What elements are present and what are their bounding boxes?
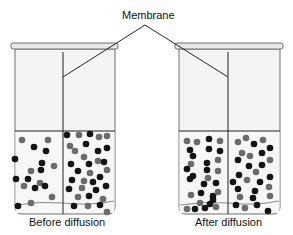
solute-molecule [204,160,211,167]
water-molecule [28,168,35,175]
solute-molecule [187,147,194,154]
solute-molecule [12,156,19,163]
solute-molecule [233,202,240,209]
water-molecule [104,209,111,216]
water-molecule [75,194,82,201]
caption-after: After diffusion [195,216,262,228]
water-molecule [184,138,191,145]
solute-molecule [190,153,197,160]
water-molecule [215,168,222,175]
beaker-rim [11,43,118,49]
solute-molecule [64,132,71,139]
solute-molecule [198,190,205,197]
water-molecule [243,135,250,142]
solute-molecule [86,193,93,200]
solute-molecule [104,145,111,152]
solute-molecule [187,176,194,183]
water-molecule [267,157,274,164]
solute-molecule [97,174,104,181]
solute-molecule [103,183,110,190]
beaker-rim [175,43,283,49]
water-molecule [247,153,254,160]
water-molecule [87,170,94,177]
solute-molecule [267,174,274,181]
solute-molecule [38,167,45,174]
solute-molecule [25,176,32,183]
water-molecule [104,167,111,174]
water-molecule [244,177,251,184]
water-molecule [19,137,26,144]
solute-molecule [201,181,208,188]
solute-molecule [217,148,224,155]
water-molecule [76,132,83,139]
water-molecule [235,139,242,146]
solute-molecule [235,157,242,164]
water-molecule [197,200,204,207]
solute-molecule [32,185,39,192]
solute-molecule [250,195,257,202]
water-molecule [266,184,273,191]
water-molecule [100,196,107,203]
solute-molecule [90,179,97,186]
beaker-after [175,43,283,214]
water-molecule [81,178,88,185]
water-molecule [81,154,88,161]
water-molecule [184,206,191,213]
solute-molecule [95,148,102,155]
solute-molecule [93,187,100,194]
solute-molecule [267,145,274,152]
solute-molecule [259,150,266,157]
water-molecule [96,134,103,141]
water-molecule [67,143,74,150]
solute-molecule [39,160,46,167]
water-molecule [28,200,35,207]
water-molecule [260,137,267,144]
solute-molecule [87,131,94,138]
water-molecule [239,150,246,157]
water-molecule [194,139,201,146]
solute-molecule [43,148,50,155]
solute-molecule [192,206,199,213]
beaker-before [11,43,118,215]
water-molecule [242,205,249,212]
solute-molecule [213,180,220,187]
solute-molecule [265,208,272,215]
membrane-label: Membrane [122,9,175,21]
solute-molecule [86,161,93,168]
water-molecule [45,137,52,144]
water-molecule [205,175,212,182]
water-molecule [85,203,92,210]
caption-before: Before diffusion [29,216,105,228]
solute-molecule [71,203,78,210]
solute-molecule [68,161,75,168]
solute-molecule [206,146,213,153]
solute-molecule [101,159,108,166]
water-molecule [51,163,58,170]
solute-molecule [13,176,20,183]
solute-molecule [252,188,259,195]
solute-molecule [69,177,76,184]
solute-molecule [66,186,73,193]
solute-molecule [204,167,211,174]
solute-molecule [246,163,253,170]
water-molecule [72,148,79,155]
water-molecule [253,169,260,176]
solute-molecule [259,162,266,169]
solute-molecule [236,172,243,179]
solute-molecule [97,202,104,209]
water-molecule [95,158,102,165]
solute-molecule [184,166,191,173]
water-molecule [21,183,28,190]
solute-molecule [235,186,242,193]
water-molecule [104,133,111,140]
diffusion-diagram [0,0,293,235]
solute-molecule [75,168,82,175]
solute-molecule [251,141,258,148]
water-molecule [215,157,222,164]
solute-molecule [207,201,214,208]
water-molecule [267,193,274,200]
water-molecule [217,138,224,145]
solute-molecule [254,202,261,209]
water-molecule [79,185,86,192]
solute-molecule [230,179,237,186]
